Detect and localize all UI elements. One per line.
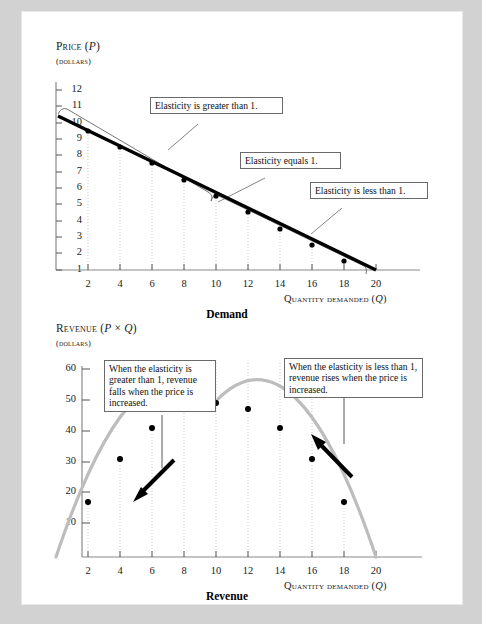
demand-point-q6	[149, 160, 154, 165]
demand-panel-caption: Demand	[167, 308, 287, 320]
revenue-point-q18	[341, 499, 347, 505]
revenue-panel: Revenue (P × Q) (dollars) 60 50 40 30 20…	[22, 322, 462, 604]
revenue-x-ticks	[88, 551, 376, 557]
revenue-point-q16	[309, 456, 315, 462]
demand-callout-elastic: Elasticity is greater than 1.	[150, 97, 283, 114]
revenue-callout-elastic: When the elasticity is greater than 1, r…	[104, 360, 216, 412]
demand-point-q16	[309, 242, 314, 247]
demand-x-ticks	[88, 264, 376, 270]
revenue-point-q12	[245, 406, 251, 412]
figure-page: Price (P) (dollars) 12 11 10 9 8 7 6 5 4…	[22, 12, 462, 604]
revenue-arrow-right	[311, 434, 352, 477]
revenue-panel-caption: Revenue	[167, 590, 287, 602]
demand-panel: Price (P) (dollars) 12 11 10 9 8 7 6 5 4…	[22, 12, 462, 312]
revenue-point-q6	[149, 425, 155, 431]
demand-point-q10	[213, 193, 218, 198]
revenue-point-q2	[85, 499, 91, 505]
demand-callout-unit-elastic: Elasticity equals 1.	[240, 152, 341, 169]
revenue-arrow-left	[133, 460, 174, 502]
demand-point-q12	[245, 209, 250, 214]
demand-leader-lines	[168, 124, 342, 234]
demand-point-q14	[277, 226, 282, 231]
demand-point-q18	[341, 258, 346, 263]
revenue-point-q14	[277, 425, 283, 431]
elasticity-figure: Price (P) (dollars) 12 11 10 9 8 7 6 5 4…	[22, 12, 462, 604]
demand-point-q4	[117, 144, 122, 149]
revenue-point-q4	[117, 456, 123, 462]
demand-point-q2	[85, 128, 90, 133]
revenue-callout-inelastic: When the elasticity is less than 1, reve…	[284, 358, 423, 398]
demand-callout-inelastic: Elasticity is less than 1.	[310, 182, 428, 199]
demand-point-q8	[181, 177, 186, 182]
